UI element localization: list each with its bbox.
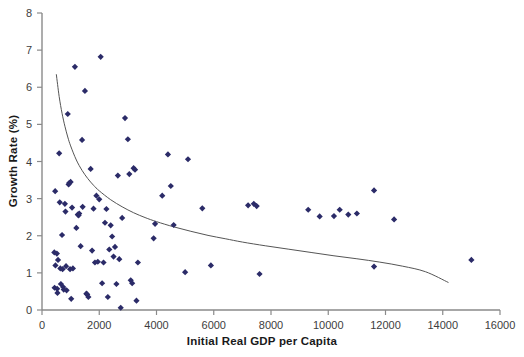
data-point [317, 213, 323, 219]
data-point [133, 298, 139, 304]
data-point [371, 187, 377, 193]
data-point [119, 215, 125, 221]
data-point [62, 201, 68, 207]
data-point [59, 232, 65, 238]
data-point [125, 136, 131, 142]
data-point [110, 253, 116, 259]
trendline [56, 74, 448, 282]
data-point [106, 246, 112, 252]
data-point [109, 233, 115, 239]
data-point [468, 257, 474, 263]
data-point [371, 263, 377, 269]
data-point [52, 188, 58, 194]
data-point [102, 220, 108, 226]
x-axis-title: Initial Real GDP per Capita [0, 335, 524, 347]
scatter-chart: 0200040006000800010000120001400016000 01… [0, 0, 524, 357]
data-points [51, 54, 474, 311]
data-point [82, 88, 88, 94]
data-point [135, 259, 141, 265]
data-point [182, 269, 188, 275]
data-point [65, 111, 71, 117]
data-point [391, 216, 397, 222]
x-axis-tick-label: 8000 [259, 319, 283, 331]
data-point [105, 294, 111, 300]
data-point [57, 199, 63, 205]
data-point [90, 206, 96, 212]
data-point [80, 204, 86, 210]
data-point [79, 137, 85, 143]
data-point [151, 235, 157, 241]
x-axis-tick-label: 0 [39, 319, 45, 331]
y-axis-tick-label: 7 [14, 44, 32, 56]
data-point [245, 202, 251, 208]
data-point [98, 54, 104, 60]
data-point [52, 262, 58, 268]
data-point [112, 244, 118, 250]
data-point [88, 166, 94, 172]
data-point [115, 173, 121, 179]
data-point [256, 271, 262, 277]
x-axis-tick-label: 10000 [313, 319, 344, 331]
data-point [69, 204, 75, 210]
data-point [54, 290, 60, 296]
axes [42, 13, 500, 310]
data-point [78, 243, 84, 249]
data-point [331, 213, 337, 219]
data-point [305, 207, 311, 213]
y-axis-ticks [37, 13, 42, 310]
data-point [99, 280, 105, 286]
y-axis-title: Growth Rate (%) [7, 101, 19, 221]
data-point [108, 222, 114, 228]
y-axis-tick-label: 8 [14, 7, 32, 19]
data-point [100, 259, 106, 265]
data-point [113, 281, 119, 287]
data-point [168, 183, 174, 189]
y-axis-tick-label: 1 [14, 267, 32, 279]
data-point [116, 256, 122, 262]
data-point [73, 225, 79, 231]
data-point [72, 64, 78, 70]
x-axis-tick-label: 4000 [144, 319, 168, 331]
data-point [89, 248, 95, 254]
data-point [126, 171, 132, 177]
data-point [55, 257, 61, 263]
y-axis-tick-label: 2 [14, 230, 32, 242]
data-point [208, 262, 214, 268]
x-axis-tick-label: 14000 [427, 319, 458, 331]
x-axis-tick-label: 16000 [485, 319, 516, 331]
y-axis-tick-label: 6 [14, 81, 32, 93]
data-point [68, 296, 74, 302]
x-axis-ticks [42, 310, 500, 315]
data-point [354, 210, 360, 216]
x-axis-tick-label: 12000 [370, 319, 401, 331]
data-point [345, 211, 351, 217]
data-point [199, 205, 205, 211]
x-axis-tick-label: 6000 [202, 319, 226, 331]
plot-area [0, 0, 524, 357]
data-point [165, 151, 171, 157]
data-point [56, 150, 62, 156]
data-point [62, 209, 68, 215]
y-axis-tick-label: 0 [14, 304, 32, 316]
data-point [337, 207, 343, 213]
data-point [122, 115, 128, 121]
data-point [185, 156, 191, 162]
x-axis-tick-label: 2000 [87, 319, 111, 331]
data-point [159, 193, 165, 199]
data-point [103, 206, 109, 212]
